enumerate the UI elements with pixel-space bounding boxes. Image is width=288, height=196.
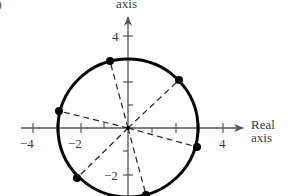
complex-plane-diagram: ) −4 −2 [0,0,288,196]
y-tick-label-4: 4 [112,29,119,44]
x-tick-label-4: 4 [219,136,226,151]
real-axis-label-line2: axis [251,130,272,145]
x-tick-label-neg4: −4 [20,136,34,151]
point-345deg [193,143,201,151]
point-165deg [55,107,63,115]
corner-fragment: ) [0,0,2,11]
point-45deg [175,76,183,84]
x-tick-label-neg2: −2 [68,136,82,151]
y-tick-label-neg2: −2 [104,168,118,183]
origin-dot [126,126,130,130]
point-225deg [73,174,81,182]
imaginary-axis-label: axis [116,0,137,11]
point-105deg [106,57,114,65]
point-285deg [142,191,150,196]
